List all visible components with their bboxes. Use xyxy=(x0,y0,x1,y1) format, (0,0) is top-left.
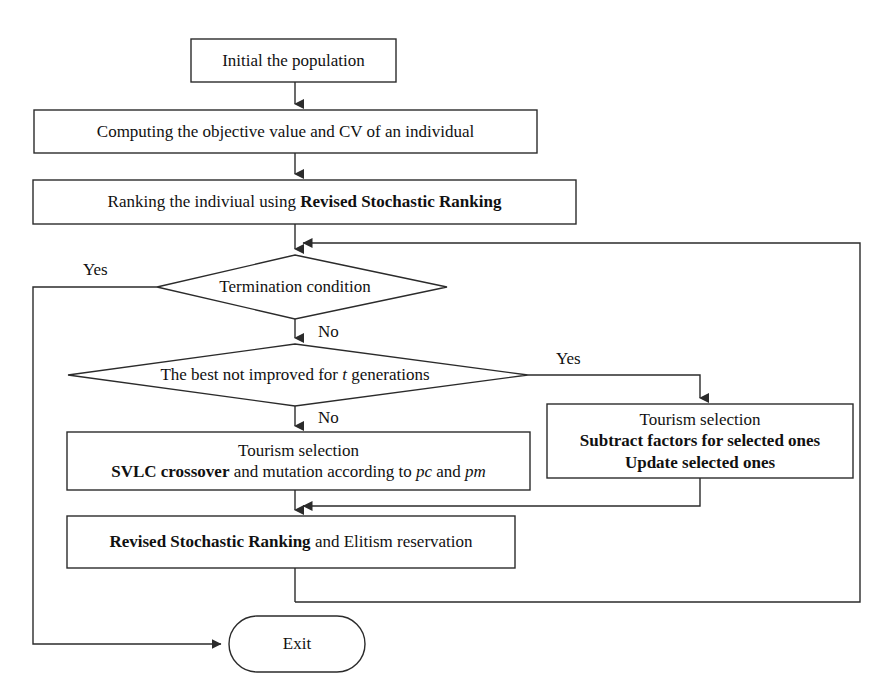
node-termination-condition[interactable] xyxy=(157,255,447,319)
node-ranking-individual[interactable] xyxy=(33,180,576,224)
node-computing-objective[interactable] xyxy=(34,110,537,153)
flowchart-canvas: Initial the population Computing the obj… xyxy=(0,0,890,689)
node-best-not-improved[interactable] xyxy=(68,344,528,406)
edge-label-best-no: No xyxy=(318,408,339,428)
node-revised-ranking-elitism[interactable] xyxy=(67,516,515,568)
edge-label-termination-yes: Yes xyxy=(83,260,108,280)
node-tourism-selection-left[interactable] xyxy=(67,432,530,490)
edge-best-yes-to-tourism-right xyxy=(528,375,700,398)
node-initial-population[interactable] xyxy=(191,39,396,82)
edge-label-termination-no: No xyxy=(318,322,339,342)
node-exit[interactable] xyxy=(229,616,365,672)
edge-label-best-yes: Yes xyxy=(556,349,581,369)
node-tourism-selection-right[interactable] xyxy=(547,404,853,478)
